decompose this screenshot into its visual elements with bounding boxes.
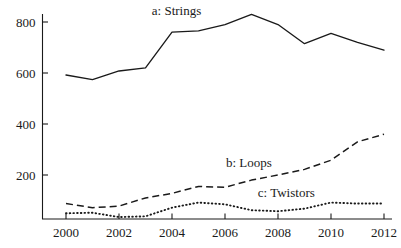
series-group [66,14,384,217]
series-label-strings: a: Strings [151,4,202,17]
y-tick-label: 200 [6,169,36,182]
x-tick-label: 2000 [41,226,91,239]
x-tick-label: 2010 [306,226,356,239]
y-tick-label: 600 [6,67,36,80]
y-axis-ticks [43,22,49,175]
series-line-strings [66,14,384,79]
series-label-twistors: c: Twistors [257,186,316,199]
x-tick-label: 2008 [253,226,303,239]
y-tick-label: 400 [6,118,36,131]
series-label-loops: b: Loops [225,156,273,169]
x-tick-label: 2006 [200,226,250,239]
axis-lines [43,14,393,219]
x-tick-label: 2004 [147,226,197,239]
x-tick-label: 2002 [94,226,144,239]
x-tick-label: 2012 [359,226,401,239]
series-line-loops [66,134,384,207]
y-tick-label: 800 [6,16,36,29]
axes-group [43,14,393,219]
